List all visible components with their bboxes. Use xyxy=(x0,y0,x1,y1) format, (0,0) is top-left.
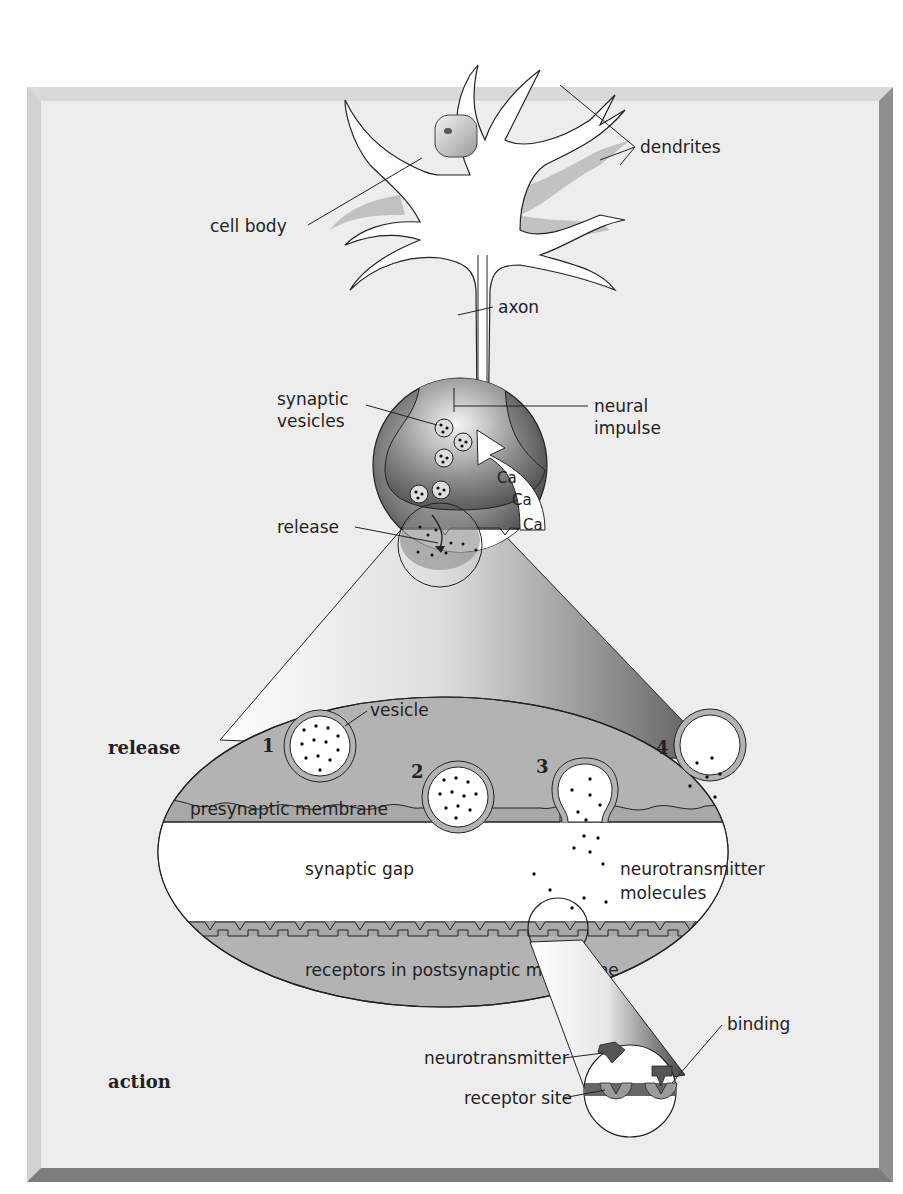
neurotransmitter-molecules-label-line1: neurotransmitter xyxy=(620,859,765,879)
neural-impulse-label-line1: neural xyxy=(594,396,648,416)
neural-impulse-label-line2: impulse xyxy=(594,418,661,438)
binding-label: binding xyxy=(727,1014,790,1034)
stage-number-4: 4 xyxy=(656,737,669,758)
neurotransmitter-label: neurotransmitter xyxy=(424,1048,569,1068)
synaptic-vesicles-label-line2: vesicles xyxy=(277,411,345,431)
presynaptic-membrane-label: presynaptic membrane xyxy=(190,799,388,819)
axon-label: axon xyxy=(498,297,539,317)
stage-number-3: 3 xyxy=(536,756,549,777)
calcium-ion-label-1: Ca xyxy=(497,469,517,487)
receptor-site-label: receptor site xyxy=(464,1088,572,1108)
synaptic-gap-label: synaptic gap xyxy=(305,859,414,879)
neurotransmitter-molecules-label-line2: molecules xyxy=(620,883,706,903)
calcium-ion-label-3: Ca xyxy=(523,516,543,534)
dendrites-label: dendrites xyxy=(640,137,721,157)
vesicle-label: vesicle xyxy=(370,700,429,720)
calcium-ion-label-2: Ca xyxy=(512,491,532,509)
section-label-release: release xyxy=(108,737,180,758)
release-label: release xyxy=(277,517,339,537)
section-label-action: action xyxy=(108,1071,171,1092)
vesicle-stage-4-empty xyxy=(674,709,746,781)
synaptic-vesicles-label-line1: synaptic xyxy=(277,389,349,409)
vesicle-stage-2 xyxy=(422,761,494,833)
vesicle-stage-3-fusing xyxy=(552,758,618,822)
diagram-canvas: dendrites cell body axon xyxy=(0,0,903,1194)
stage-number-1: 1 xyxy=(262,735,275,756)
stage-number-2: 2 xyxy=(411,761,424,782)
cell-body-label: cell body xyxy=(210,216,287,236)
